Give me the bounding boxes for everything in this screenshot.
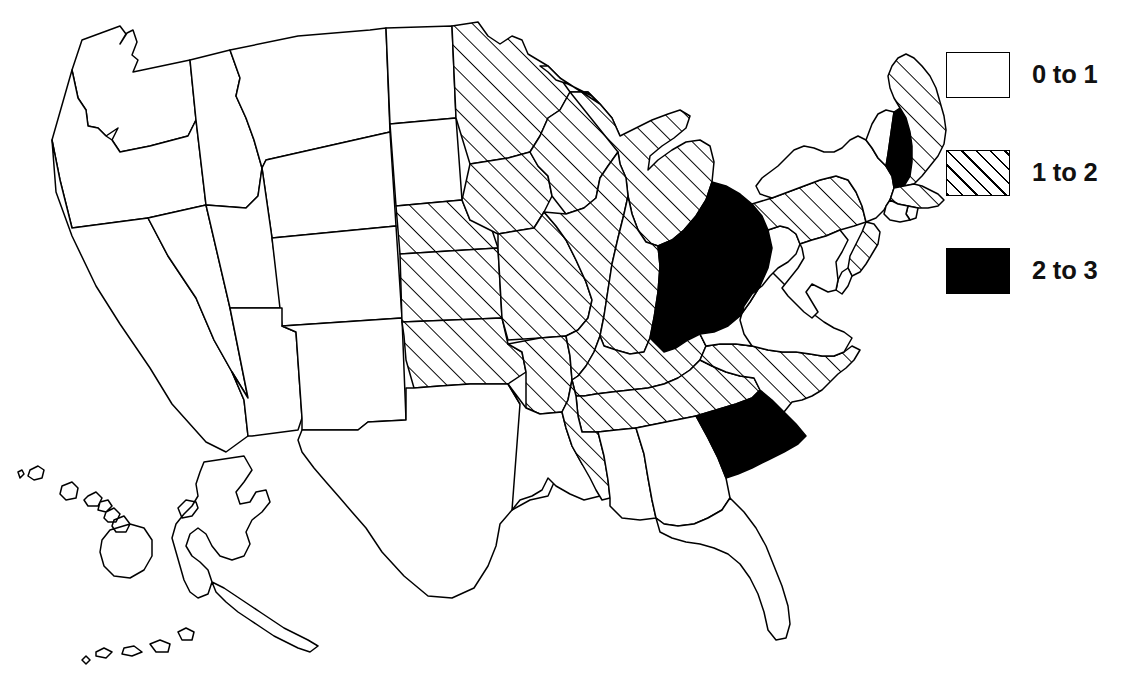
state-KS[interactable] — [400, 248, 502, 322]
state-NJ[interactable] — [848, 222, 880, 276]
legend-swatch-hatch — [946, 150, 1010, 196]
legend-label-0: 0 to 1 — [1032, 62, 1097, 88]
legend-item-2[interactable]: 2 to 3 — [946, 246, 1121, 296]
state-HI[interactable] — [18, 466, 152, 578]
choropleth-figure: 0 to 1 1 to 2 2 to 3 — [0, 0, 1124, 700]
state-CO[interactable] — [272, 226, 402, 326]
state-shapes — [18, 22, 946, 664]
legend-label-2: 2 to 3 — [1032, 258, 1097, 284]
legend-item-1[interactable]: 1 to 2 — [946, 148, 1121, 198]
legend-label-1: 1 to 2 — [1032, 160, 1097, 186]
state-SD[interactable] — [390, 118, 462, 206]
state-ND[interactable] — [386, 26, 456, 124]
map-legend: 0 to 1 1 to 2 2 to 3 — [946, 30, 1121, 310]
legend-swatch-solid — [946, 248, 1010, 294]
legend-item-0[interactable]: 0 to 1 — [946, 50, 1121, 100]
legend-swatch-none — [946, 52, 1010, 98]
